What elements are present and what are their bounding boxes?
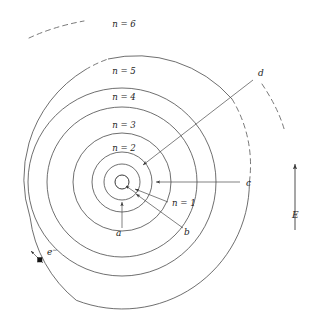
shell-label-n6-text: n = 6 [112, 19, 136, 29]
transition-arrow-d [143, 80, 253, 165]
shell-label-n2: n = 2 [112, 143, 136, 153]
transition-label-b: b [184, 227, 190, 237]
shell-label-n4: n = 4 [112, 92, 136, 102]
transition-label-d: d [258, 68, 264, 78]
orbit-arc-dashed-n6-upper-right [232, 99, 251, 182]
energy-axis-label: E [291, 210, 299, 220]
shell-label-n4-text: n = 4 [112, 92, 136, 102]
electron-group [31, 251, 43, 263]
shell-label-n3-text: n = 3 [112, 120, 136, 130]
transition-arrow-to-nucleus [126, 186, 136, 193]
orbit-shells-group [24, 21, 285, 309]
electron-label: e− [47, 246, 57, 257]
labels-group: n = 6 n = 5 n = 4 n = 3 n = 2 n = 1 a b … [47, 19, 299, 257]
bohr-model-diagram: n = 6 n = 5 n = 4 n = 3 n = 2 n = 1 a b … [0, 0, 314, 310]
transition-arrow-b-stub [135, 189, 168, 202]
orbit-fragment-dashed-right [262, 84, 285, 132]
shell-label-n1-text: n = 1 [172, 198, 196, 208]
electron-label-charge: − [52, 246, 57, 253]
orbit-fragment-dashed-top-left [29, 21, 84, 38]
shell-label-n2-text: n = 2 [112, 143, 136, 153]
shell-label-n1: n = 1 [172, 198, 196, 208]
electron-dot [38, 258, 42, 262]
shell-label-n5: n = 5 [112, 66, 136, 76]
shell-label-n6: n = 6 [112, 19, 136, 29]
transition-label-c: c [246, 178, 251, 188]
shell-label-n3: n = 3 [112, 120, 136, 130]
orbit-arc-dashed-n6-upper-left [86, 59, 109, 70]
shell-label-n5-text: n = 5 [112, 66, 136, 76]
orbital-diagram-canvas: n = 6 n = 5 n = 4 n = 3 n = 2 n = 1 a b … [0, 0, 314, 310]
transition-label-a: a [116, 228, 121, 238]
